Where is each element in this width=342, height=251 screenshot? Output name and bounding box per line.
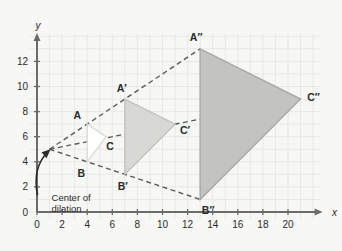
vertex-label-C1: C′	[180, 124, 191, 136]
y-tick-label: 0	[22, 207, 28, 218]
annotation-text-line1: Center of	[52, 192, 91, 203]
x-tick-label: 18	[257, 219, 269, 230]
coordinate-plane: xy 02468101214161820246810120 ABCA′B′C′A…	[0, 0, 342, 251]
y-axis-label: y	[35, 20, 42, 31]
y-tick-label: 4	[22, 156, 28, 167]
x-tick-label: 14	[207, 219, 219, 230]
x-axis-label: x	[331, 207, 338, 218]
vertex-label-A: A	[73, 109, 81, 121]
y-tick-label: 2	[22, 181, 28, 192]
y-tick-label: 8	[22, 106, 28, 117]
vertex-label-C: C	[106, 140, 114, 152]
x-tick-label: 12	[182, 219, 194, 230]
vertex-label-B1: B′	[118, 180, 129, 192]
y-tick-label: 10	[17, 81, 29, 92]
x-tick-label: 4	[84, 219, 90, 230]
vertex-label-B2: B″	[202, 204, 215, 216]
vertex-label-C2: C″	[307, 91, 320, 103]
x-tick-label: 10	[157, 219, 169, 230]
vertex-label-B: B	[77, 167, 85, 179]
y-tick-label: 12	[17, 56, 29, 67]
annotation-text-line2: dilation	[52, 203, 82, 214]
x-tick-label: 6	[110, 219, 116, 230]
x-tick-label: 2	[59, 219, 65, 230]
x-tick-label: 0	[34, 219, 40, 230]
y-tick-label: 6	[22, 131, 28, 142]
dilation-figure: xy 02468101214161820246810120 ABCA′B′C′A…	[0, 0, 342, 251]
x-tick-label: 16	[232, 219, 244, 230]
vertex-label-A2: A″	[190, 31, 203, 43]
x-tick-label: 20	[282, 219, 294, 230]
x-tick-label: 8	[135, 219, 141, 230]
vertex-label-A1: A′	[117, 82, 128, 94]
